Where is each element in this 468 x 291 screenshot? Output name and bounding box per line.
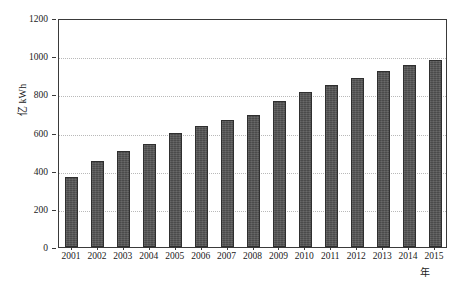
bar bbox=[221, 120, 234, 247]
x-axis-tick-mark bbox=[175, 247, 176, 250]
bar bbox=[91, 161, 104, 247]
y-axis-tick-label: 1000 bbox=[0, 52, 52, 62]
y-axis-tick-mark bbox=[52, 95, 56, 96]
y-axis-tick-label: 200 bbox=[0, 205, 52, 215]
x-axis-tick-mark bbox=[71, 247, 72, 250]
y-axis-tick-labels: 020040060080010001200 bbox=[0, 19, 52, 248]
x-axis-tick-mark bbox=[434, 247, 435, 250]
x-axis-tick-mark bbox=[253, 247, 254, 250]
bar bbox=[351, 78, 364, 247]
x-axis-tick-label: 2015 bbox=[417, 250, 451, 262]
x-axis-tick-mark bbox=[123, 247, 124, 250]
y-axis-tick-mark bbox=[52, 57, 56, 58]
y-axis-tick-label: 0 bbox=[0, 243, 52, 253]
bar bbox=[299, 92, 312, 247]
bar bbox=[325, 85, 338, 247]
y-axis-tick-label: 600 bbox=[0, 129, 52, 139]
x-axis-tick-mark bbox=[304, 247, 305, 250]
x-axis-tick-mark bbox=[227, 247, 228, 250]
x-axis-tick-mark bbox=[149, 247, 150, 250]
y-axis-tick-mark bbox=[52, 210, 56, 211]
bar bbox=[247, 115, 260, 247]
y-axis-tick-mark bbox=[52, 134, 56, 135]
bar bbox=[403, 65, 416, 247]
x-axis-tick-mark bbox=[408, 247, 409, 250]
x-axis-tick-mark bbox=[330, 247, 331, 250]
plot-area bbox=[58, 19, 447, 248]
x-axis-tick-mark bbox=[382, 247, 383, 250]
bar bbox=[143, 144, 156, 247]
y-axis-tick-mark bbox=[52, 19, 56, 20]
x-axis-tick-labels: 2001200220032004200520062007200820092010… bbox=[58, 250, 447, 266]
bar-chart: 亿 kWh 020040060080010001200 200120022003… bbox=[0, 0, 468, 291]
x-axis-tick-mark bbox=[356, 247, 357, 250]
y-axis-tick-label: 800 bbox=[0, 90, 52, 100]
y-axis-tick-label: 1200 bbox=[0, 14, 52, 24]
bar bbox=[377, 71, 390, 247]
x-axis-tick-mark bbox=[201, 247, 202, 250]
bars-layer bbox=[59, 20, 446, 247]
bar bbox=[117, 151, 130, 247]
bar bbox=[169, 133, 182, 248]
x-axis-title: 年 bbox=[420, 264, 430, 279]
bar bbox=[195, 126, 208, 247]
bar bbox=[273, 101, 286, 247]
bar bbox=[429, 60, 442, 247]
y-axis-tick-mark bbox=[52, 172, 56, 173]
x-axis-tick-mark bbox=[97, 247, 98, 250]
x-axis-tick-mark bbox=[278, 247, 279, 250]
y-axis-tick-mark bbox=[52, 248, 56, 249]
y-axis-tick-label: 400 bbox=[0, 167, 52, 177]
bar bbox=[65, 177, 78, 247]
